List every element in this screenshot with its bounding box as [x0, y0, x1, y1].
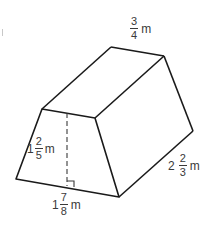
fraction: 7 8 [60, 192, 68, 217]
label-height: 1 2 5 m [27, 136, 55, 161]
edge-top-left [42, 47, 111, 109]
fraction: 2 3 [179, 153, 187, 178]
fraction: 2 5 [35, 136, 43, 161]
prism-drawing [0, 0, 216, 231]
right-angle-marker [67, 181, 74, 187]
fraction: 3 4 [130, 16, 138, 41]
label-top-width: 3 4 m [130, 16, 151, 41]
scan-mark [2, 29, 3, 36]
label-length: 2 2 3 m [168, 153, 200, 178]
edge-top-right [95, 56, 164, 118]
edge-back-top [111, 47, 164, 56]
label-bottom-width: 1 7 8 m [52, 192, 81, 217]
edge-back-right [164, 56, 193, 131]
trapezoidal-prism-figure: 3 4 m 1 2 5 m 1 7 8 m 2 2 3 m [0, 0, 216, 231]
